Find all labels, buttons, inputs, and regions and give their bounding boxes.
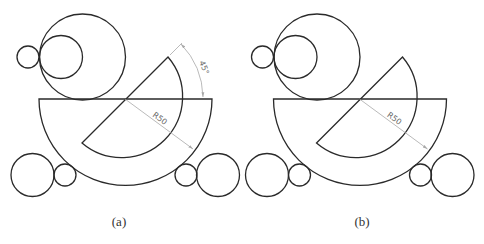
wheel-right-small	[410, 164, 432, 186]
wheel-left-small	[289, 164, 311, 186]
wheel-right-large	[431, 154, 474, 197]
wing-semicircle	[317, 57, 418, 158]
eye-circle	[40, 36, 83, 79]
panel-b-drawing: R50	[246, 14, 475, 197]
caption-a: (a)	[112, 214, 126, 230]
wheel-right-large	[197, 154, 240, 197]
figure-svg: R50 45° R50	[0, 0, 484, 244]
radius-leader-b	[360, 99, 428, 149]
eye-circle	[274, 36, 317, 79]
beak-circle	[252, 46, 274, 68]
wing-semicircle	[82, 57, 183, 158]
angle-arc	[181, 44, 203, 97]
body-semicircle	[274, 99, 447, 185]
beak-circle	[17, 46, 39, 68]
wheel-left-large	[246, 154, 289, 197]
radius-leader-a	[125, 99, 193, 149]
wheel-left-small	[54, 164, 76, 186]
caption-b: (b)	[354, 214, 369, 230]
figure-canvas: R50 45° R50 (a) (b)	[0, 0, 484, 244]
body-semicircle	[39, 99, 212, 185]
wheel-right-small	[175, 164, 197, 186]
panel-a-drawing: R50 45°	[11, 14, 240, 197]
angle-extension-line	[170, 43, 182, 55]
wheel-left-large	[11, 154, 54, 197]
